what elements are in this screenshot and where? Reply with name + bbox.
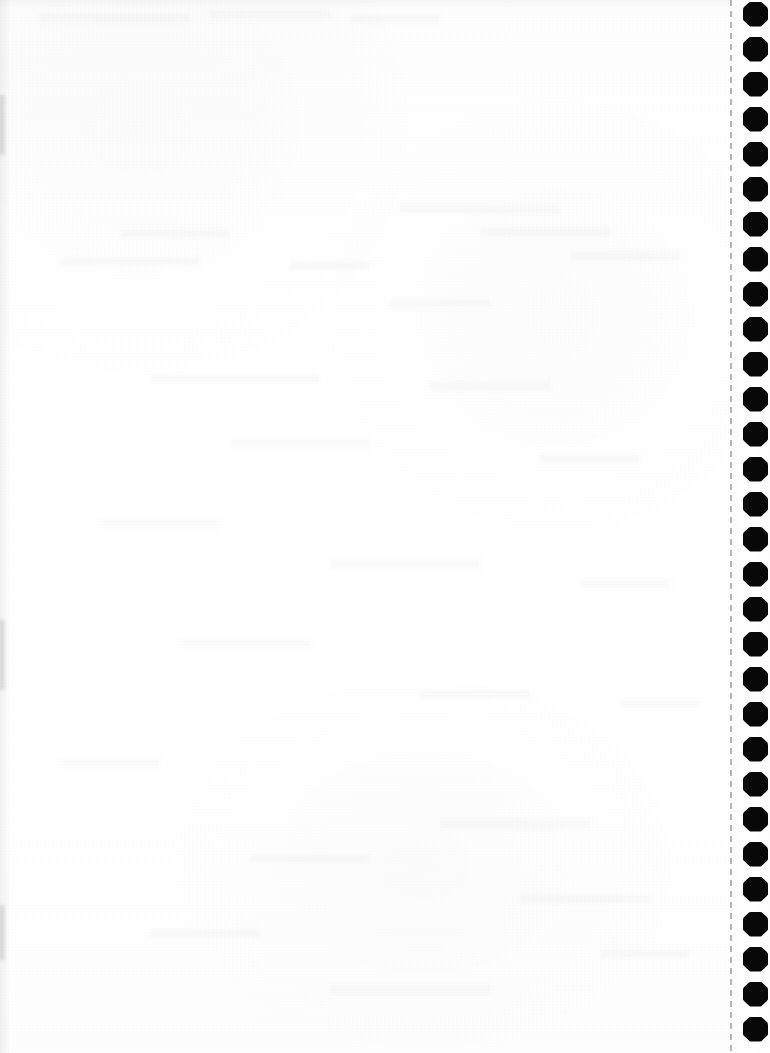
sprocket-hole	[743, 72, 768, 97]
sprocket-hole	[743, 667, 768, 692]
sprocket-hole	[743, 912, 768, 937]
sprocket-hole	[743, 1017, 768, 1042]
sprocket-hole	[743, 527, 768, 552]
sprocket-hole	[743, 947, 768, 972]
sprocket-hole	[743, 37, 768, 62]
sprocket-hole	[743, 247, 768, 272]
sprocket-hole	[743, 772, 768, 797]
sprocket-hole	[743, 107, 768, 132]
sprocket-hole	[743, 492, 768, 517]
sprocket-hole	[743, 387, 768, 412]
sprocket-hole	[743, 632, 768, 657]
sprocket-hole	[743, 597, 768, 622]
sprocket-hole	[743, 282, 768, 307]
sprocket-hole	[743, 982, 768, 1007]
sprocket-hole	[743, 212, 768, 237]
sprocket-hole	[743, 457, 768, 482]
sprocket-hole	[743, 142, 768, 167]
sprocket-hole	[743, 422, 768, 447]
sprocket-hole	[743, 702, 768, 727]
sprocket-hole	[743, 352, 768, 377]
sprocket-hole	[743, 177, 768, 202]
sprocket-hole	[743, 842, 768, 867]
sprocket-hole	[743, 562, 768, 587]
sprocket-hole	[743, 317, 768, 342]
sprocket-hole	[743, 737, 768, 762]
sprocket-hole-column	[743, 0, 768, 1053]
sprocket-hole	[743, 2, 768, 27]
sprocket-hole	[743, 807, 768, 832]
scanned-page	[0, 0, 770, 1053]
page-body-text	[40, 40, 690, 1000]
sprocket-hole	[743, 877, 768, 902]
perforation-dashed-line	[730, 0, 732, 1053]
